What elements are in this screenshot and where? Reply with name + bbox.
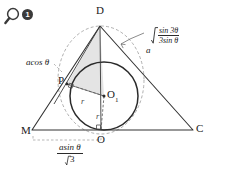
radius-o1-o <box>101 96 104 130</box>
magnifier-handle-icon <box>5 18 9 23</box>
label-base-denominator-group: 3 <box>57 154 83 171</box>
right-angle-marker-p <box>68 83 73 88</box>
radicand-numerator: sin 3θ <box>158 26 179 36</box>
vertex-label-d: D <box>96 5 104 16</box>
label-base-numerator: asin θ <box>57 143 83 154</box>
label-hypotenuse-coefficient: a <box>146 46 151 55</box>
label-hypotenuse: asin 3θ3sin θ <box>146 26 179 53</box>
label-side-left: acos θ <box>26 58 49 67</box>
radical-group: sin 3θ3sin θ <box>151 26 179 50</box>
vertex-label-o1-base: O <box>107 88 115 100</box>
point-marker-o1 <box>103 95 106 98</box>
radical-sign-icon <box>151 26 158 50</box>
point-marker-p <box>66 83 69 86</box>
vertex-label-o1: O1 <box>107 89 118 103</box>
label-base-denominator: 3 <box>70 155 75 164</box>
base-measure-brace <box>33 136 101 140</box>
vertex-label-o: O <box>97 134 105 145</box>
label-base: asin θ 3 <box>57 143 83 170</box>
radius-label-horizontal: r <box>81 97 84 106</box>
vertex-label-o1-subscript: 1 <box>115 96 119 104</box>
radicand-fraction: sin 3θ3sin θ <box>158 26 179 50</box>
geometry-figure: 1 D M C O P O1 r r acos θ asin 3θ3sin θ … <box>0 0 226 173</box>
step-number-badge: 1 <box>22 9 33 20</box>
leader-line-hypotenuse <box>121 33 144 44</box>
radicand-denominator: 3sin θ <box>158 36 179 45</box>
radius-label-vertical: r <box>96 112 99 121</box>
vertex-label-p: P <box>58 75 64 86</box>
figure-canvas <box>0 0 226 173</box>
leader-line-side-left <box>54 64 62 72</box>
leader-arrowhead-hypotenuse <box>121 44 126 48</box>
vertex-label-m: M <box>21 125 31 136</box>
vertex-label-c: C <box>196 123 203 134</box>
sqrt3-group: 3 <box>65 155 76 167</box>
